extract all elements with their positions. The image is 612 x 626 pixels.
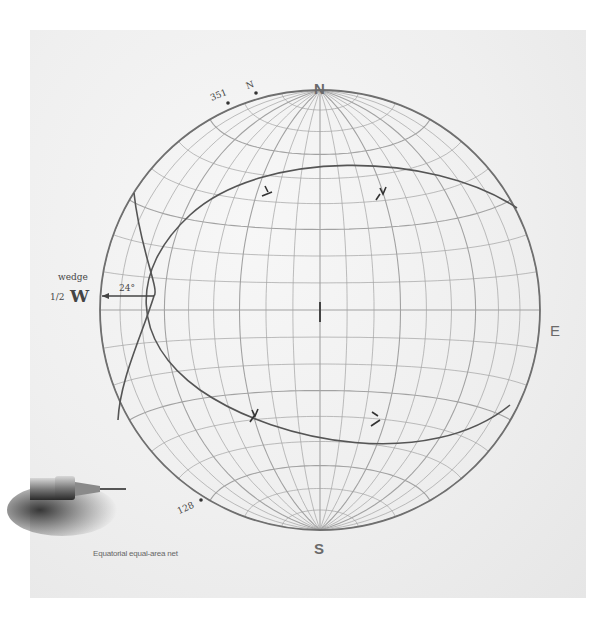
stereonet [0, 0, 612, 626]
pencil-icon [7, 476, 126, 536]
great-circle-1 [146, 165, 517, 443]
tick-128 [199, 498, 203, 502]
arrow-head-icon [102, 293, 109, 299]
label-west: W [70, 286, 89, 306]
label-angle: 24° [119, 283, 135, 293]
label-half: 1/2 [50, 292, 64, 302]
label-north: N [314, 80, 325, 97]
label-south: S [314, 540, 324, 557]
label-wedge: wedge [58, 272, 88, 282]
tick-351 [226, 101, 230, 105]
tick-north [254, 91, 258, 95]
great-circle-2 [118, 193, 155, 420]
caption: Equatorial equal-area net [93, 549, 178, 558]
label-east: E [550, 322, 560, 339]
